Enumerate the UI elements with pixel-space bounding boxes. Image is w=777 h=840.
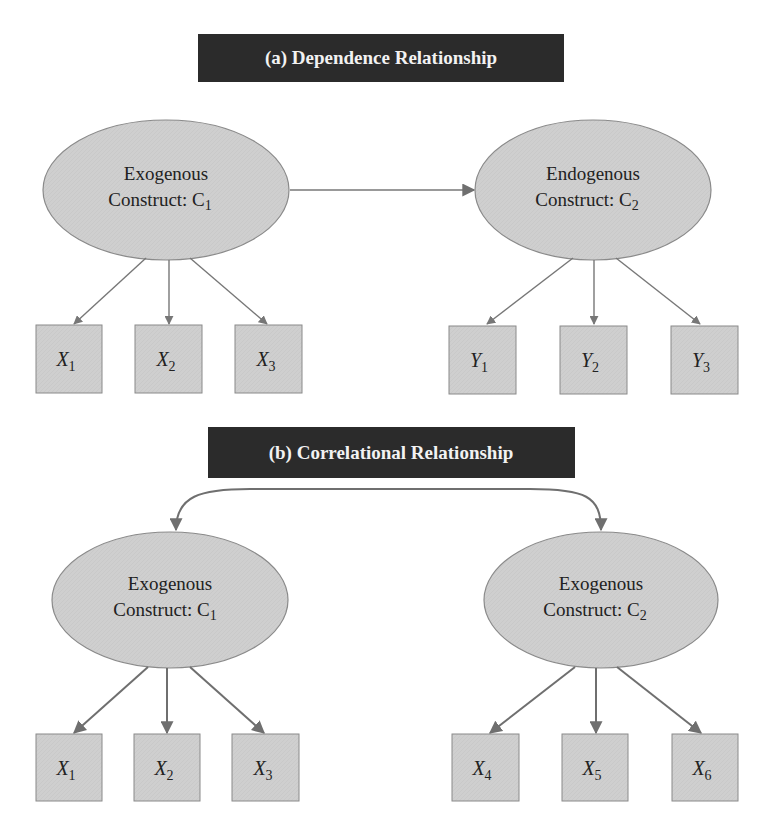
- loading-arrow: [616, 258, 700, 324]
- indicator-b-x4: X4: [452, 734, 519, 801]
- loading-arrows-a-left: [74, 258, 267, 324]
- loading-arrows-b-left: [74, 667, 264, 733]
- loading-arrow: [190, 258, 267, 324]
- construct-label-line1: Exogenous: [124, 163, 208, 184]
- indicator-b-x1: X1: [36, 734, 102, 801]
- panel-a-dependence: (a) Dependence Relationship Exogenous Co…: [36, 34, 738, 394]
- sem-diagram: (a) Dependence Relationship Exogenous Co…: [0, 0, 777, 840]
- loading-arrow: [74, 667, 148, 733]
- panel-a-title-banner: (a) Dependence Relationship: [198, 34, 564, 82]
- construct-label-line1: Exogenous: [128, 573, 212, 594]
- construct-label-line1: Endogenous: [546, 163, 640, 184]
- panel-b-title-banner: (b) Correlational Relationship: [208, 427, 575, 478]
- loading-arrows-a-right: [487, 258, 700, 324]
- loading-arrows-b-right: [490, 667, 701, 733]
- panel-b-correlational: (b) Correlational Relationship Exogenous…: [36, 427, 738, 801]
- construct-a-c2: Endogenous Construct: C2: [475, 120, 711, 260]
- indicator-a-y1: Y1: [449, 326, 516, 394]
- panel-a-title: (a) Dependence Relationship: [265, 47, 497, 69]
- construct-label-line2: Construct: C1: [108, 189, 212, 213]
- indicator-a-x1: X1: [36, 325, 102, 393]
- construct-b-c2: Exogenous Construct: C2: [484, 532, 718, 668]
- loading-arrow: [74, 258, 146, 324]
- indicator-a-x3: X3: [235, 325, 302, 393]
- loading-arrow: [487, 258, 573, 324]
- construct-label-line2: Construct: C2: [543, 599, 647, 623]
- indicator-b-x2: X2: [134, 734, 200, 801]
- correlation-arrow: [176, 489, 601, 530]
- loading-arrow: [617, 667, 701, 733]
- indicator-a-y3: Y3: [671, 326, 738, 394]
- indicator-b-x5: X5: [562, 734, 628, 801]
- construct-label-line1: Exogenous: [559, 573, 643, 594]
- indicator-b-x6: X6: [672, 734, 738, 801]
- indicator-a-y2: Y2: [560, 326, 627, 394]
- loading-arrow: [490, 667, 575, 733]
- indicator-a-x2: X2: [135, 325, 202, 393]
- panel-b-title: (b) Correlational Relationship: [269, 442, 514, 464]
- construct-a-c1: Exogenous Construct: C1: [43, 120, 289, 260]
- indicator-b-x3: X3: [232, 734, 299, 801]
- construct-label-line2: Construct: C2: [535, 189, 639, 213]
- construct-b-c1: Exogenous Construct: C1: [52, 532, 288, 668]
- construct-label-line2: Construct: C1: [113, 599, 217, 623]
- loading-arrow: [190, 667, 264, 733]
